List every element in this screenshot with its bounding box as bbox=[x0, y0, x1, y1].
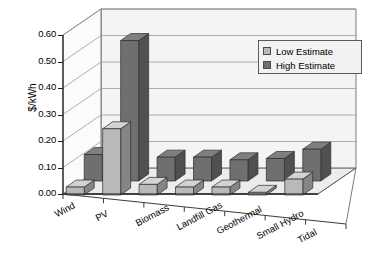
y-axis-tick-mark bbox=[58, 35, 63, 36]
y-axis-tick-mark bbox=[58, 194, 63, 195]
y-axis-tick-mark bbox=[58, 88, 63, 89]
y-axis-tick-label: 0.40 bbox=[22, 81, 56, 92]
y-axis-tick-mark bbox=[58, 141, 63, 142]
y-axis-tick-label: 0.20 bbox=[22, 134, 56, 145]
y-axis-tick-label: 0.30 bbox=[22, 108, 56, 119]
legend-label-low: Low Estimate bbox=[276, 46, 333, 57]
y-axis-tick-label: 0.10 bbox=[22, 161, 56, 172]
legend-swatch-low bbox=[263, 47, 271, 55]
chart-container: $/kWh 0.000.100.200.300.400.500.60 WindP… bbox=[0, 0, 382, 267]
legend-item-high: High Estimate bbox=[263, 58, 357, 72]
y-axis-tick-label: 0.50 bbox=[22, 55, 56, 66]
y-axis-tick-mark bbox=[58, 115, 63, 116]
y-axis-tick-label: 0.60 bbox=[22, 28, 56, 39]
y-axis-tick-mark bbox=[58, 168, 63, 169]
legend-label-high: High Estimate bbox=[276, 60, 335, 71]
legend-item-low: Low Estimate bbox=[263, 44, 357, 58]
y-axis-tick-mark bbox=[58, 62, 63, 63]
chart-legend: Low Estimate High Estimate bbox=[258, 40, 362, 74]
y-axis-tick-label: 0.00 bbox=[22, 187, 56, 198]
legend-swatch-high bbox=[263, 61, 271, 69]
